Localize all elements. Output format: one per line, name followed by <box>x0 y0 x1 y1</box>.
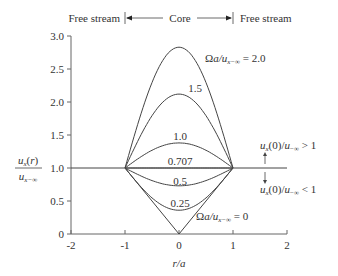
y-axis-label-denominator: ux−∞ <box>19 170 37 184</box>
header-arrow-right-head <box>226 16 232 21</box>
header-arrow-left-head <box>126 16 132 21</box>
y-tick-label: 3.0 <box>50 30 64 42</box>
x-tick-label: -1 <box>120 239 129 251</box>
x-tick-label: 1 <box>230 239 236 251</box>
header-core: Core <box>169 12 191 24</box>
label-omega-2-0: Ωa/ux−∞ = 2.0 <box>205 52 266 66</box>
y-tick-label: 1.5 <box>50 129 64 141</box>
label-0-707: 0.707 <box>168 155 193 167</box>
condition-above: ux(0)/u−∞ > 1 <box>260 139 316 153</box>
label-1-0: 1.0 <box>173 130 187 142</box>
header-free-stream-right: Free stream <box>240 12 292 24</box>
x-axis-label: r/a <box>173 257 186 269</box>
label-0-5: 0.5 <box>173 175 187 187</box>
y-tick-label: 0.5 <box>50 195 64 207</box>
y-tick-label: 2.5 <box>50 63 64 75</box>
condition-below: ux(0)/u−∞ < 1 <box>260 183 316 197</box>
series-curve-2-0 <box>125 47 233 168</box>
label-omega-0: Ωa/ux−∞ = 0 <box>196 210 249 224</box>
x-tick-label: 0 <box>176 239 182 251</box>
y-tick-label: 2.0 <box>50 96 64 108</box>
chart: 00.51.01.52.02.53.0-2-1012 r/aux(r)ux−∞Ω… <box>0 0 338 276</box>
x-tick-label: -2 <box>66 239 75 251</box>
header-free-stream-left: Free stream <box>68 12 120 24</box>
label-0-25: 0.25 <box>170 197 190 209</box>
x-tick-label: 2 <box>284 239 290 251</box>
label-1-5: 1.5 <box>188 82 202 94</box>
y-axis-label-numerator: ux(r) <box>18 154 39 168</box>
y-tick-label: 0 <box>59 228 65 240</box>
y-tick-label: 1.0 <box>50 162 64 174</box>
